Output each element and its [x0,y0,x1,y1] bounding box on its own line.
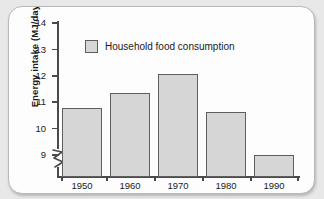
x-tick-label-1960: 1960 [110,181,150,191]
x-tick-2 [154,177,156,181]
y-tick-label-11: 11 [20,97,46,107]
y-tick-10 [52,128,59,130]
scan-background: Energy intake (MJ/day) 14 13 12 11 10 9 [0,0,324,199]
y-tick-label-14: 14 [20,18,46,28]
bar-1990[interactable] [254,155,294,177]
y-axis-line [57,21,59,149]
y-tick-label-10: 10 [20,124,46,134]
legend-swatch-household-food-consumption [85,40,98,53]
x-tick-5 [297,177,299,181]
x-tick-label-1990: 1990 [254,181,294,191]
bar-1980[interactable] [206,112,246,177]
y-tick-label-13: 13 [20,45,46,55]
chart-legend: Household food consumption [85,40,235,53]
bar-1960[interactable] [110,93,150,177]
y-tick-11 [52,101,59,103]
y-tick-label-9: 9 [20,150,46,160]
y-tick-12 [52,75,59,77]
x-tick-label-1970: 1970 [158,181,198,191]
bar-1970[interactable] [158,74,198,177]
y-tick-14 [52,22,59,24]
x-tick-4 [250,177,252,181]
x-tick-3 [202,177,204,181]
bar-chart: Energy intake (MJ/day) 14 13 12 11 10 9 [9,7,314,193]
x-tick-label-1980: 1980 [206,181,246,191]
chart-card: Energy intake (MJ/day) 14 13 12 11 10 9 [8,6,315,194]
y-tick-label-12: 12 [20,71,46,81]
x-tick-label-1950: 1950 [62,181,102,191]
y-tick-13 [52,49,59,51]
y-tick-9 [52,154,59,156]
bar-1950[interactable] [62,108,102,177]
legend-label-household-food-consumption: Household food consumption [105,41,235,52]
x-tick-1 [106,177,108,181]
